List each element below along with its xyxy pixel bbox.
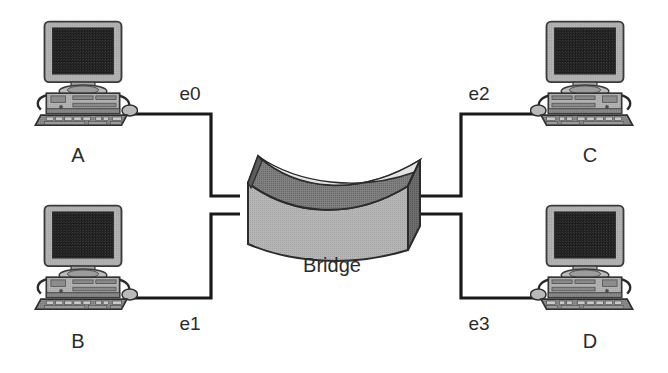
- host-label-c: C: [583, 144, 597, 166]
- cable-d-to-e3[interactable]: [411, 214, 540, 298]
- desktop-computer-icon: [530, 206, 632, 310]
- host-label-d: D: [583, 330, 597, 352]
- cable-b-to-e1[interactable]: [125, 214, 240, 298]
- diagram-svg-root: A B C D e0 e1 e2 e3 Bridge: [0, 0, 668, 373]
- host-a[interactable]: [35, 22, 137, 126]
- port-label-e1: e1: [179, 313, 200, 334]
- port-label-e3: e3: [468, 313, 489, 334]
- network-diagram-canvas: A B C D e0 e1 e2 e3 Bridge: [0, 0, 668, 373]
- bridge-label: Bridge: [303, 254, 361, 276]
- host-c[interactable]: [530, 22, 632, 126]
- cable-a-to-e0[interactable]: [125, 114, 240, 196]
- host-label-a: A: [71, 144, 85, 166]
- port-label-e2: e2: [468, 83, 489, 104]
- port-label-e0: e0: [179, 83, 200, 104]
- bridge-icon[interactable]: [248, 156, 420, 261]
- cable-c-to-e2[interactable]: [411, 114, 540, 196]
- desktop-computer-icon: [35, 206, 137, 310]
- host-d[interactable]: [530, 206, 632, 310]
- host-label-b: B: [71, 330, 84, 352]
- desktop-computer-icon: [35, 22, 137, 126]
- host-b[interactable]: [35, 206, 137, 310]
- desktop-computer-icon: [530, 22, 632, 126]
